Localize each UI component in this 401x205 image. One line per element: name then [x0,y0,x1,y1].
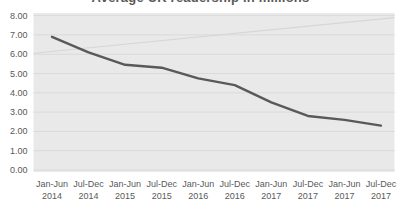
readership-line-chart: Average UK readership in millions 0.001.… [0,0,401,205]
x-tick-label-period: Jan-Jun [182,179,214,189]
y-tick-label: 7.00 [10,30,28,40]
x-tick-label-period: Jul-Dec [220,179,251,189]
x-tick-label-period: Jan-Jun [36,179,68,189]
y-tick-label: 2.00 [10,126,28,136]
y-tick-label: 4.00 [10,88,28,98]
y-tick-label: 3.00 [10,107,28,117]
x-tick-label-period: Jul-Dec [146,179,177,189]
x-tick-label-year: 2017 [298,191,318,201]
chart-svg: 0.001.002.003.004.005.006.007.008.00Jan-… [0,0,401,205]
x-tick-label-period: Jan-Jun [328,179,360,189]
y-tick-label: 0.00 [10,165,28,175]
x-tick-label-period: Jul-Dec [73,179,104,189]
x-tick-label-year: 2014 [42,191,62,201]
x-tick-label-year: 2015 [115,191,135,201]
x-tick-label-period: Jan-Jun [255,179,287,189]
x-tick-label-year: 2016 [225,191,245,201]
x-tick-label-year: 2016 [188,191,208,201]
x-tick-label-period: Jan-Jun [109,179,141,189]
y-tick-label: 5.00 [10,69,28,79]
y-tick-label: 1.00 [10,146,28,156]
x-tick-label-period: Jul-Dec [366,179,397,189]
x-tick-label-year: 2017 [371,191,391,201]
y-tick-label: 8.00 [10,11,28,21]
x-tick-label-year: 2015 [152,191,172,201]
x-tick-label-period: Jul-Dec [293,179,324,189]
x-tick-label-year: 2017 [261,191,281,201]
y-tick-label: 6.00 [10,49,28,59]
x-tick-label-year: 2017 [334,191,354,201]
x-tick-label-year: 2014 [79,191,99,201]
